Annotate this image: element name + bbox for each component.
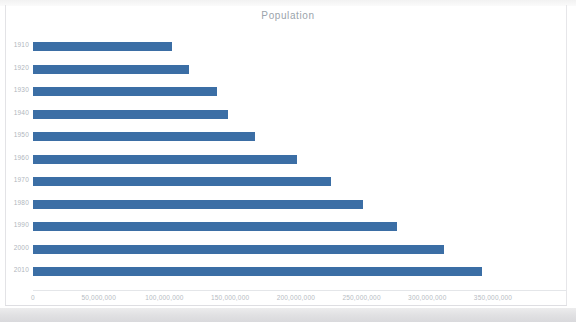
bar-row: 1950	[33, 126, 493, 149]
bar-2010	[33, 267, 482, 276]
y-axis-tick-label: 1940	[5, 109, 29, 116]
x-axis-tick-label: 50,000,000	[81, 294, 116, 301]
bar-row: 1910	[33, 36, 493, 59]
page-edge-top	[0, 0, 576, 6]
chart-container: Population 19101920193019401950196019701…	[0, 0, 576, 322]
bar-1930	[33, 87, 217, 96]
x-axis-tick-label: 100,000,000	[145, 294, 183, 301]
y-axis-tick-label: 1980	[5, 199, 29, 206]
y-axis-tick-label: 1970	[5, 176, 29, 183]
chart-title: Population	[0, 10, 576, 21]
y-axis-tick-1930: 1930	[2, 81, 29, 104]
x-axis-line	[33, 290, 566, 291]
bar-2000	[33, 245, 444, 254]
bar-1950	[33, 132, 255, 141]
bar-row: 2010	[33, 261, 493, 284]
y-axis-tick-2000: 2000	[2, 239, 29, 262]
bar-row: 2000	[33, 239, 493, 262]
bar-1920	[33, 65, 189, 74]
y-axis-tick-1970: 1970	[2, 171, 29, 194]
bar-row: 1990	[33, 216, 493, 239]
x-axis-tick-label: 0	[31, 294, 35, 301]
y-axis-tick-1910: 1910	[2, 36, 29, 59]
y-axis-tick-1950: 1950	[2, 126, 29, 149]
x-axis-tick-label: 150,000,000	[211, 294, 249, 301]
y-axis-tick-1920: 1920	[2, 59, 29, 82]
y-axis-tick-label: 1930	[5, 86, 29, 93]
bar-1970	[33, 177, 331, 186]
y-axis-tick-label: 1960	[5, 154, 29, 161]
page-edge-bottom	[0, 308, 576, 322]
x-axis-tick-label: 300,000,000	[408, 294, 446, 301]
bar-1990	[33, 222, 397, 231]
y-axis-tick-label: 1920	[5, 64, 29, 71]
y-axis-tick-1980: 1980	[2, 194, 29, 217]
x-axis-tick-label: 250,000,000	[342, 294, 380, 301]
y-axis-tick-2010: 2010	[2, 261, 29, 284]
bar-1960	[33, 155, 297, 164]
y-axis-tick-label: 1950	[5, 131, 29, 138]
x-axis-tick-label: 350,000,000	[474, 294, 512, 301]
y-axis-tick-label: 1990	[5, 221, 29, 228]
chart-border-bottom	[5, 305, 567, 306]
bar-row: 1970	[33, 171, 493, 194]
bar-1940	[33, 110, 228, 119]
bar-1980	[33, 200, 363, 209]
bar-row: 1940	[33, 104, 493, 127]
bar-row: 1960	[33, 149, 493, 172]
y-axis-tick-1990: 1990	[2, 216, 29, 239]
bar-row: 1930	[33, 81, 493, 104]
y-axis-tick-label: 2010	[5, 266, 29, 273]
bar-row: 1920	[33, 59, 493, 82]
x-axis-tick-label: 200,000,000	[277, 294, 315, 301]
y-axis-tick-1940: 1940	[2, 104, 29, 127]
bar-row: 1980	[33, 194, 493, 217]
y-axis-tick-label: 2000	[5, 244, 29, 251]
y-axis-tick-1960: 1960	[2, 149, 29, 172]
plot-area: 1910192019301940195019601970198019902000…	[33, 36, 493, 290]
bar-1910	[33, 42, 172, 51]
y-axis-tick-label: 1910	[5, 41, 29, 48]
chart-border-right	[566, 5, 567, 305]
